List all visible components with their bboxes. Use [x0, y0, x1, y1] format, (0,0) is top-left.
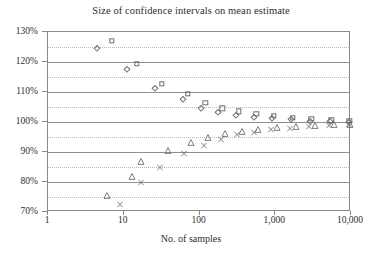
data-point-cross [117, 194, 124, 212]
y-axis-tick-mark [42, 151, 47, 152]
data-point-square [329, 117, 334, 122]
data-point-square [109, 38, 114, 43]
x-axis-tick-mark [123, 211, 124, 215]
data-point-square [253, 111, 258, 116]
data-point-diamond [232, 112, 238, 118]
data-point-square [159, 81, 164, 86]
x-axis-tick-label: 10 [118, 215, 128, 225]
data-point-cross [250, 122, 257, 140]
gridline-minor [48, 167, 349, 168]
gridline-major [48, 122, 349, 123]
y-axis-tick-mark [42, 91, 47, 92]
data-point-cross [217, 129, 224, 147]
y-axis-tick-label: 130% [0, 26, 38, 36]
data-point-triangle [138, 151, 145, 169]
x-axis-tick-mark [47, 211, 48, 215]
data-point-square [203, 100, 208, 105]
data-point-cross [233, 124, 240, 142]
chart-title: Size of confidence intervals on mean est… [0, 5, 382, 16]
x-axis-tick-mark [199, 211, 200, 215]
data-point-diamond [94, 45, 100, 51]
data-point-cross [306, 116, 313, 134]
data-point-square [347, 118, 352, 123]
data-point-triangle [238, 121, 245, 139]
data-point-diamond [345, 119, 351, 125]
data-point-triangle [129, 166, 136, 184]
x-axis-tick-label: 10,000 [337, 215, 363, 225]
data-point-diamond [327, 118, 333, 124]
data-point-triangle [188, 132, 195, 150]
data-point-diamond [307, 117, 313, 123]
data-point-diamond [198, 104, 204, 110]
data-point-triangle [164, 140, 171, 158]
data-point-cross [286, 118, 293, 136]
data-point-cross [138, 172, 145, 190]
y-axis-tick-mark [42, 61, 47, 62]
gridline-major [48, 62, 349, 63]
data-point-triangle [205, 127, 212, 145]
data-point-cross [345, 114, 352, 132]
data-point-diamond [179, 96, 185, 102]
x-axis-title: No. of samples [0, 233, 382, 244]
gridline-minor [48, 137, 349, 138]
y-axis-tick-label: 70% [0, 206, 38, 216]
data-point-square [290, 115, 295, 120]
data-point-triangle [346, 114, 353, 132]
x-axis-tick-label: 1,000 [264, 215, 285, 225]
data-point-diamond [287, 116, 293, 122]
data-point-cross [201, 135, 208, 153]
data-point-square [271, 113, 276, 118]
data-point-diamond [250, 113, 256, 119]
data-point-diamond [215, 109, 221, 115]
data-point-square [185, 91, 190, 96]
data-point-triangle [331, 114, 338, 132]
data-point-triangle [311, 115, 318, 133]
y-axis-tick-label: 110% [0, 86, 38, 96]
y-axis-tick-label: 90% [0, 146, 38, 156]
data-point-triangle [103, 185, 110, 203]
data-point-square [134, 61, 139, 66]
data-point-cross [268, 119, 275, 137]
gridline-minor [48, 77, 349, 78]
x-axis-tick-mark [350, 211, 351, 215]
gridline-major [48, 152, 349, 153]
gridline-minor [48, 47, 349, 48]
y-axis-tick-label: 100% [0, 116, 38, 126]
data-point-cross [180, 143, 187, 161]
data-series-layer [48, 32, 349, 210]
gridlines [48, 32, 349, 210]
gridline-minor [48, 197, 349, 198]
x-axis-tick-mark [274, 211, 275, 215]
confidence-interval-chart: Size of confidence intervals on mean est… [0, 0, 382, 257]
data-point-triangle [255, 119, 262, 137]
data-point-diamond [152, 85, 158, 91]
data-point-cross [326, 115, 333, 133]
y-axis-tick-mark [42, 121, 47, 122]
y-axis-tick-mark [42, 31, 47, 32]
data-point-cross [156, 157, 163, 175]
data-point-triangle [293, 116, 300, 134]
x-axis-tick-label: 100 [191, 215, 205, 225]
data-point-square [236, 108, 241, 113]
gridline-major [48, 182, 349, 183]
data-point-triangle [221, 123, 228, 141]
gridline-minor [48, 107, 349, 108]
data-point-diamond [269, 115, 275, 121]
data-point-square [309, 116, 314, 121]
plot-area [47, 31, 350, 211]
data-point-triangle [273, 117, 280, 135]
y-axis-tick-label: 80% [0, 176, 38, 186]
data-point-square [220, 105, 225, 110]
y-axis-tick-label: 120% [0, 56, 38, 66]
gridline-major [48, 92, 349, 93]
y-axis-tick-mark [42, 181, 47, 182]
x-axis-tick-label: 1 [45, 215, 50, 225]
data-point-diamond [124, 66, 130, 72]
